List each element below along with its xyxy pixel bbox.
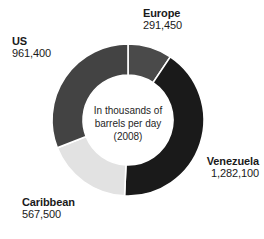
callout-us-value: 961,400 [12,47,51,59]
callout-europe-value: 291,450 [143,19,182,31]
callout-venezuela-value: 1,282,100 [207,167,259,179]
callout-venezuela-category: Venezuela [207,155,259,167]
callout-europe-category: Europe [143,7,182,19]
donut-slice-caribbean [57,136,126,195]
callout-europe: Europe 291,450 [143,7,182,32]
callout-venezuela: Venezuela 1,282,100 [207,155,259,180]
callout-us-category: US [12,35,51,47]
callout-caribbean-value: 567,500 [22,208,75,220]
center-note-line-3: (2008) [74,130,182,143]
donut-center-note: In thousands of barrels per day (2008) [74,104,182,144]
callout-caribbean: Caribbean 567,500 [22,196,75,221]
center-note-line-1: In thousands of [74,104,182,117]
callout-us: US 961,400 [12,35,51,60]
callout-caribbean-category: Caribbean [22,196,75,208]
donut-chart-figure: Europe 291,450 US 961,400 Venezuela 1,28… [0,0,264,239]
center-note-line-2: barrels per day [74,117,182,130]
